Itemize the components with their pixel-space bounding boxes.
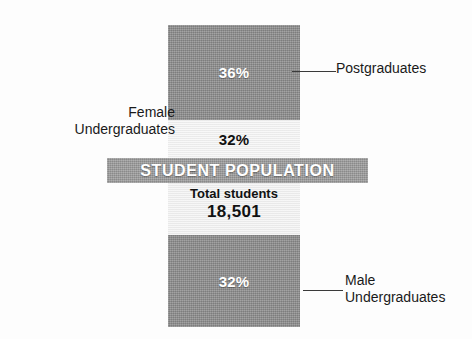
- callout-female-undergraduates-line-1: Female: [75, 104, 175, 121]
- bar-segment-female-undergraduates-value: 32%: [219, 131, 250, 148]
- callout-male-undergraduates-line-1: Male: [345, 272, 445, 289]
- callout-female-undergraduates-line-2: Undergraduates: [75, 121, 175, 138]
- bar-segment-male-undergraduates: 32%: [168, 235, 300, 327]
- totals-group: Total students 18,501: [150, 186, 318, 222]
- callout-male-undergraduates: Male Undergraduates: [345, 272, 445, 306]
- leader-line-postgraduates: [292, 71, 336, 72]
- callout-female-undergraduates: Female Undergraduates: [75, 104, 175, 138]
- bar-segment-postgraduates: 36%: [168, 25, 300, 120]
- totals-label: Total students: [150, 186, 318, 202]
- leader-line-male-undergraduates: [303, 290, 343, 291]
- student-population-infographic: 36% 32% 32% STUDENT POPULATION Total stu…: [0, 0, 472, 339]
- callout-postgraduates: Postgraduates: [336, 60, 426, 77]
- leader-line-female-undergraduates-svg: [0, 0, 2, 4]
- chart-title: STUDENT POPULATION: [140, 162, 335, 180]
- bar-segment-male-undergraduates-value: 32%: [219, 273, 250, 290]
- bar-segment-postgraduates-value: 36%: [219, 64, 250, 81]
- callout-postgraduates-line-1: Postgraduates: [336, 60, 426, 77]
- totals-value: 18,501: [150, 202, 318, 222]
- leader-line-female-undergraduates: [0, 0, 1, 1]
- bar-segment-female-undergraduates: 32%: [168, 120, 300, 158]
- callout-male-undergraduates-line-2: Undergraduates: [345, 289, 445, 306]
- chart-title-band: STUDENT POPULATION: [107, 158, 368, 183]
